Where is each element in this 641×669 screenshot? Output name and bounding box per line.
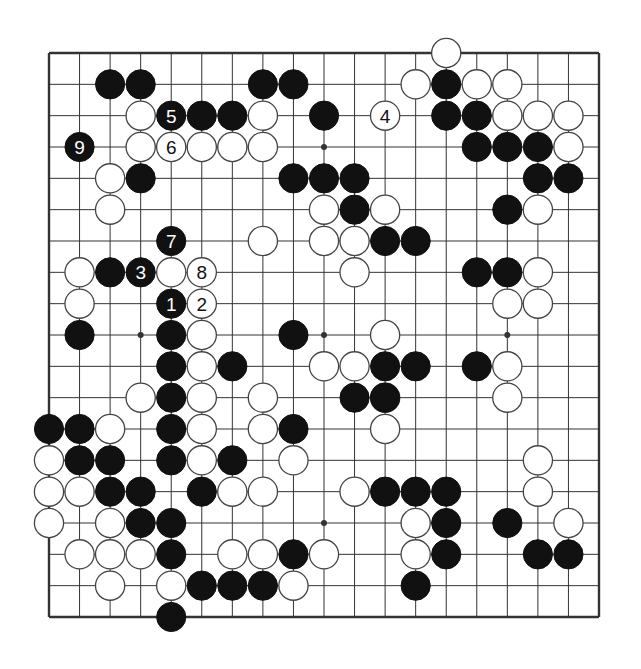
star-point xyxy=(504,332,510,338)
black-stone xyxy=(493,508,522,537)
white-stone xyxy=(309,352,338,381)
white-stone xyxy=(187,132,216,161)
black-stone xyxy=(34,414,63,443)
black-stone xyxy=(554,540,583,569)
white-stone xyxy=(96,164,125,193)
white-stone xyxy=(248,383,277,412)
white-stone xyxy=(96,195,125,224)
white-stone xyxy=(126,132,155,161)
black-stone xyxy=(340,164,369,193)
white-stone xyxy=(157,258,186,287)
black-stone xyxy=(371,226,400,255)
black-stone xyxy=(126,70,155,99)
black-stone xyxy=(340,195,369,224)
move-number-label: 5 xyxy=(166,106,177,127)
white-stone: 6 xyxy=(157,132,186,161)
black-stone xyxy=(157,320,186,349)
black-stone xyxy=(157,508,186,537)
white-stone: 8 xyxy=(187,258,216,287)
black-stone xyxy=(432,540,461,569)
white-stone xyxy=(493,352,522,381)
move-number-label: 2 xyxy=(196,294,207,315)
white-stone xyxy=(432,38,461,67)
white-stone xyxy=(493,101,522,130)
black-stone xyxy=(462,132,491,161)
white-stone xyxy=(340,226,369,255)
black-stone xyxy=(401,226,430,255)
white-stone xyxy=(187,414,216,443)
black-stone xyxy=(248,70,277,99)
black-stone xyxy=(157,352,186,381)
white-stone xyxy=(554,132,583,161)
black-stone xyxy=(218,446,247,475)
black-stone xyxy=(462,101,491,130)
black-stone xyxy=(462,352,491,381)
white-stone xyxy=(157,571,186,600)
star-point xyxy=(138,332,144,338)
black-stone xyxy=(157,540,186,569)
black-stone: 3 xyxy=(126,258,155,287)
black-stone xyxy=(65,446,94,475)
white-stone xyxy=(126,101,155,130)
black-stone xyxy=(493,132,522,161)
black-stone xyxy=(432,101,461,130)
black-stone xyxy=(523,132,552,161)
black-stone xyxy=(462,258,491,287)
white-stone xyxy=(309,540,338,569)
black-stone xyxy=(432,508,461,537)
black-stone xyxy=(126,508,155,537)
white-stone xyxy=(126,540,155,569)
black-stone xyxy=(96,258,125,287)
white-stone xyxy=(340,352,369,381)
white-stone xyxy=(401,508,430,537)
white-stone xyxy=(65,289,94,318)
black-stone xyxy=(279,414,308,443)
star-point xyxy=(321,520,327,526)
white-stone xyxy=(34,477,63,506)
black-stone xyxy=(96,70,125,99)
white-stone xyxy=(340,477,369,506)
black-stone xyxy=(371,352,400,381)
black-stone xyxy=(401,477,430,506)
white-stone xyxy=(34,508,63,537)
black-stone xyxy=(279,540,308,569)
white-stone xyxy=(218,477,247,506)
white-stone xyxy=(523,477,552,506)
white-stone xyxy=(401,540,430,569)
black-stone xyxy=(523,164,552,193)
black-stone xyxy=(523,540,552,569)
black-stone xyxy=(432,70,461,99)
black-stone xyxy=(279,164,308,193)
move-number-label: 7 xyxy=(166,231,177,252)
black-stone: 1 xyxy=(157,289,186,318)
white-stone xyxy=(187,446,216,475)
white-stone xyxy=(65,477,94,506)
white-stone xyxy=(248,226,277,255)
white-stone xyxy=(554,508,583,537)
white-stone xyxy=(248,101,277,130)
go-board-diagram: 468259731 xyxy=(0,0,641,669)
move-number-label: 9 xyxy=(74,137,85,158)
white-stone xyxy=(493,383,522,412)
white-stone xyxy=(279,571,308,600)
black-stone xyxy=(126,477,155,506)
white-stone xyxy=(493,289,522,318)
white-stone xyxy=(96,414,125,443)
white-stone xyxy=(523,101,552,130)
white-stone xyxy=(187,383,216,412)
black-stone: 7 xyxy=(157,226,186,255)
white-stone xyxy=(523,289,552,318)
white-stone xyxy=(248,414,277,443)
white-stone xyxy=(554,101,583,130)
white-stone xyxy=(126,383,155,412)
white-stone xyxy=(96,508,125,537)
white-stone xyxy=(523,195,552,224)
white-stone: 2 xyxy=(187,289,216,318)
black-stone xyxy=(401,352,430,381)
white-stone xyxy=(187,320,216,349)
white-stone xyxy=(493,70,522,99)
white-stone xyxy=(248,540,277,569)
move-number-label: 1 xyxy=(166,294,177,315)
black-stone xyxy=(65,320,94,349)
star-point xyxy=(321,144,327,150)
